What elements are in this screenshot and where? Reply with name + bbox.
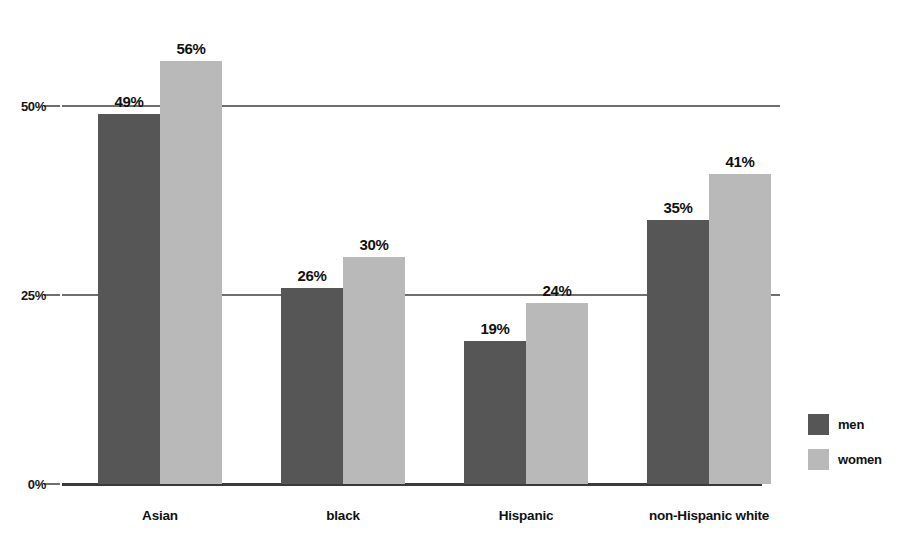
plot-area: 0%25%50%49%56%Asian26%30%black19%24%Hisp… (62, 12, 780, 484)
y-tick-mark-25 (44, 294, 60, 296)
bar-men-Asian: 49% (98, 114, 160, 484)
bar-group: 26%30% (281, 12, 405, 484)
legend-swatch-women-icon (808, 449, 829, 470)
bar-value-label: 24% (543, 282, 572, 299)
bar-value-label: 41% (726, 153, 755, 170)
x-axis-category-label: Asian (142, 508, 178, 523)
bar-men-non-Hispanic-white: 35% (647, 220, 709, 484)
legend-item-men: men (808, 414, 882, 435)
y-tick-mark-50 (44, 105, 60, 107)
bar-group: 49%56% (98, 12, 222, 484)
legend-swatch-men-icon (808, 414, 829, 435)
legend-item-women: women (808, 449, 882, 470)
bar-value-label: 30% (360, 236, 389, 253)
bar-women-Hispanic: 24% (526, 303, 588, 484)
bar-men-Hispanic: 19% (464, 341, 526, 484)
x-axis-category-label: non-Hispanic white (649, 508, 769, 523)
bar-value-label: 56% (177, 40, 206, 57)
bar-value-label: 35% (664, 199, 693, 216)
bar-women-non-Hispanic-white: 41% (709, 174, 771, 484)
y-axis-tick-label: 25% (0, 288, 46, 303)
legend-label-men: men (838, 417, 864, 432)
bar-women-Asian: 56% (160, 61, 222, 484)
bar-group: 35%41% (647, 12, 771, 484)
bar-women-black: 30% (343, 257, 405, 484)
y-tick-mark-0 (44, 483, 60, 485)
bar-men-black: 26% (281, 288, 343, 484)
y-axis-tick-label: 0% (0, 477, 46, 492)
bar-value-label: 49% (115, 93, 144, 110)
bar-chart: 0%25%50%49%56%Asian26%30%black19%24%Hisp… (0, 0, 910, 545)
y-axis-tick-label: 50% (0, 99, 46, 114)
bar-value-label: 19% (481, 320, 510, 337)
chart-legend: men women (808, 414, 882, 484)
x-axis-category-label: black (326, 508, 360, 523)
bar-value-label: 26% (298, 267, 327, 284)
x-axis-category-label: Hispanic (499, 508, 554, 523)
legend-label-women: women (838, 452, 882, 467)
bar-group: 19%24% (464, 12, 588, 484)
